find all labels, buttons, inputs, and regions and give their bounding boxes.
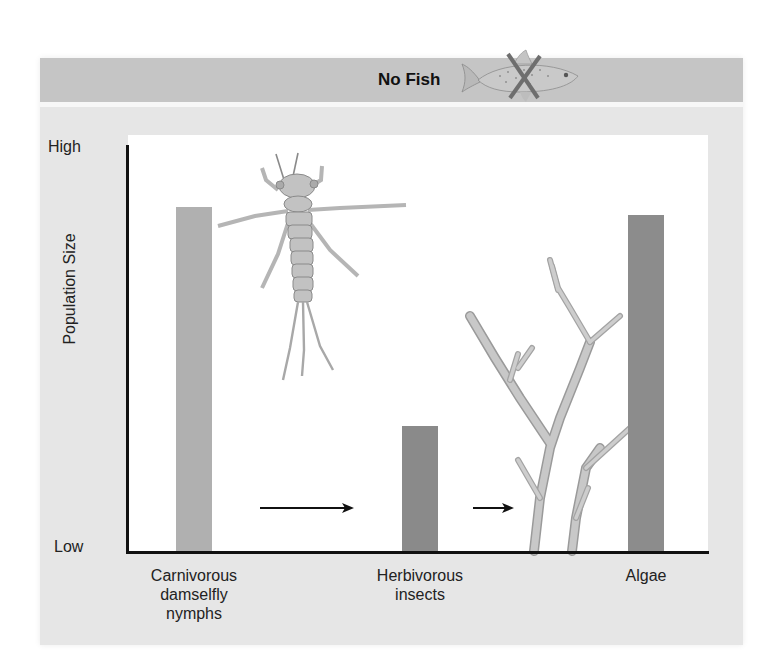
y-axis bbox=[126, 145, 129, 554]
category-label-line: Algae bbox=[586, 566, 706, 585]
figure-panel: No Fish bbox=[40, 58, 743, 645]
category-label-line: insects bbox=[360, 585, 480, 604]
header-title: No Fish bbox=[378, 70, 440, 90]
bar-carnivorous-damselfly-nymphs bbox=[176, 207, 212, 552]
x-axis bbox=[126, 551, 709, 554]
y-tick-low: Low bbox=[54, 538, 83, 556]
category-label-line: Herbivorous bbox=[360, 566, 480, 585]
crossed-out-fish-icon bbox=[460, 48, 590, 104]
y-tick-high: High bbox=[48, 138, 81, 156]
category-label-line: damselfly bbox=[134, 585, 254, 604]
category-label-algae: Algae bbox=[586, 566, 706, 585]
category-label-herbivorous: Herbivorous insects bbox=[360, 566, 480, 604]
header-divider bbox=[40, 102, 743, 107]
bar-herbivorous-insects bbox=[402, 426, 438, 552]
y-axis-title: Population Size bbox=[61, 219, 79, 359]
header-bar: No Fish bbox=[40, 58, 743, 102]
category-label-carnivorous: Carnivorous damselfly nymphs bbox=[134, 566, 254, 623]
category-label-line: Carnivorous bbox=[134, 566, 254, 585]
bar-algae bbox=[628, 215, 664, 552]
category-label-line: nymphs bbox=[134, 604, 254, 623]
